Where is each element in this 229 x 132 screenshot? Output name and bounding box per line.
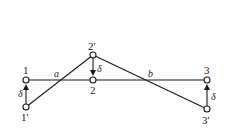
node-2 bbox=[90, 77, 96, 83]
label-delta-2: δ bbox=[97, 63, 102, 74]
label-node-1-prime: 1' bbox=[21, 111, 29, 123]
label-intersection-a: a bbox=[54, 68, 59, 79]
label-node-3-prime: 3' bbox=[202, 114, 210, 126]
label-node-1: 1 bbox=[23, 64, 29, 76]
node-1-prime bbox=[23, 104, 29, 110]
node-2-prime bbox=[90, 52, 96, 58]
label-intersection-b: b bbox=[148, 68, 153, 79]
node-3-prime bbox=[204, 106, 210, 112]
label-node-2: 2 bbox=[90, 84, 96, 96]
label-node-2-prime: 2' bbox=[88, 40, 96, 52]
label-delta-3: δ bbox=[211, 91, 216, 102]
node-3 bbox=[204, 77, 210, 83]
label-node-3: 3 bbox=[204, 64, 210, 76]
label-delta-1: δ bbox=[18, 88, 23, 99]
displacement-diagram: 1 1' 2 2' 3 3' a b δ δ δ bbox=[0, 0, 229, 132]
deformed-line-2p-3p bbox=[93, 55, 207, 109]
node-1 bbox=[23, 77, 29, 83]
deformed-line-1p-2p bbox=[26, 55, 93, 107]
